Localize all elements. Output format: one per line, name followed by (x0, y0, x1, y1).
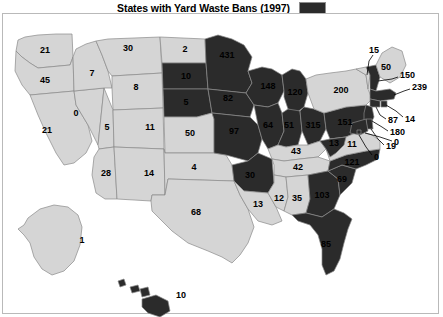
label-nj: 180 (390, 127, 405, 137)
label-co: 11 (145, 122, 155, 132)
leader-line-ma (394, 89, 410, 95)
label-hi: 10 (176, 290, 186, 300)
label-nm: 14 (144, 168, 154, 178)
label-ut: 5 (104, 122, 109, 132)
label-wy: 8 (133, 82, 138, 92)
label-ct: 87 (388, 115, 398, 125)
leader-line-nj (372, 121, 388, 131)
label-ri: 14 (405, 114, 415, 124)
state-ri[interactable] (381, 101, 387, 107)
state-hi[interactable] (118, 279, 126, 287)
label-or: 45 (40, 75, 50, 85)
us-choropleth-map: 21 45 21 0 7 30 8 5 11 28 14 2 10 5 50 4… (0, 13, 443, 317)
label-fl: 85 (321, 239, 331, 249)
label-vt: 15 (369, 45, 379, 55)
label-ar: 30 (245, 170, 255, 180)
label-in: 51 (284, 120, 294, 130)
label-mt: 30 (123, 43, 133, 53)
label-al: 35 (292, 193, 302, 203)
label-ok: 4 (191, 162, 196, 172)
label-wv: 13 (329, 138, 339, 148)
label-pa: 151 (337, 117, 352, 127)
label-il: 64 (263, 120, 273, 130)
state-ma[interactable] (370, 89, 396, 101)
label-ma: 239 (412, 82, 427, 92)
label-az: 28 (101, 168, 111, 178)
label-ny: 200 (333, 85, 348, 95)
label-oh: 315 (305, 120, 320, 130)
label-ky: 43 (291, 146, 301, 156)
state-dc[interactable] (357, 130, 361, 134)
label-ia: 82 (223, 93, 233, 103)
label-nd: 2 (182, 44, 187, 54)
label-md: 0 (394, 137, 399, 147)
label-sc: 69 (337, 174, 347, 184)
label-tn: 42 (293, 162, 303, 172)
label-tx: 68 (191, 207, 201, 217)
state-mo[interactable] (212, 113, 262, 161)
label-mi: 120 (287, 87, 302, 97)
state-hi-2[interactable] (130, 285, 140, 293)
label-mn: 431 (219, 50, 234, 60)
label-ms: 12 (274, 193, 284, 203)
label-nc: 121 (344, 157, 359, 167)
state-hi-3[interactable] (140, 287, 150, 297)
label-sd: 10 (181, 71, 191, 81)
yard-waste-ban-map-figure: States with Yard Waste Bans (1997) (0, 0, 443, 317)
label-nh: 150 (400, 70, 415, 80)
label-ne: 5 (183, 97, 188, 107)
label-ga: 103 (314, 190, 329, 200)
label-ca: 21 (42, 125, 52, 135)
label-la: 13 (253, 199, 263, 209)
label-wa: 21 (40, 45, 50, 55)
state-nm[interactable] (114, 147, 165, 201)
label-dc: 0 (374, 152, 379, 162)
state-hi-4[interactable] (142, 295, 170, 317)
label-nv: 0 (73, 108, 78, 118)
label-ak: 1 (79, 235, 84, 245)
label-mo: 97 (229, 126, 239, 136)
label-va: 11 (347, 139, 357, 149)
label-wi: 148 (260, 81, 275, 91)
state-ak[interactable] (18, 205, 82, 275)
leader-line-ct (376, 107, 386, 119)
state-mn[interactable] (205, 35, 252, 93)
label-ks: 50 (185, 128, 195, 138)
label-me: 50 (381, 62, 391, 72)
label-id: 7 (89, 68, 94, 78)
state-co[interactable] (113, 108, 164, 149)
